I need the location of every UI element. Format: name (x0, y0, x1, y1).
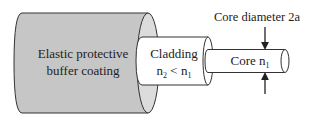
buffer-label-line2: buffer coating (46, 63, 120, 78)
cladding-index-label: n2 < n1 (157, 63, 192, 80)
optical-fiber-diagram: Elastic protective buffer coating Claddi… (0, 0, 317, 121)
buffer-label-line1: Elastic protective (38, 46, 129, 61)
core-label: Core n1 (230, 53, 269, 70)
core-diameter-annotation: Core diameter 2a (214, 10, 301, 24)
cladding-label: Cladding (150, 46, 198, 61)
